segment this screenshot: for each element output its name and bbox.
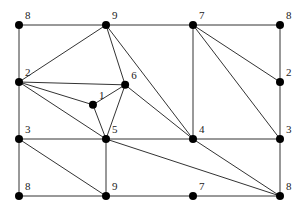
node-n6 [121,81,129,89]
node-label-n9b: 9 [112,180,118,192]
edge-n6-n4 [125,85,193,139]
edge-n4-n8br [193,139,280,196]
node-n8bl [15,192,23,200]
edge-n9t-n2l [19,25,106,82]
edge-n1-n6 [93,85,125,105]
node-n7b [189,192,197,200]
node-label-n8tl: 8 [25,9,31,21]
node-n9b [102,192,110,200]
node-n8tr [276,21,284,29]
edges-group [19,25,280,196]
node-label-n4: 4 [199,123,205,135]
edge-n2l-n1 [19,82,93,105]
node-n2l [15,78,23,86]
node-label-n2r: 2 [286,66,292,78]
node-label-n8tr: 8 [286,9,292,21]
edge-n1-n5 [93,105,106,139]
node-n4 [189,135,197,143]
node-n7t [189,21,197,29]
node-label-n5: 5 [112,123,118,135]
node-n1 [89,101,97,109]
node-label-n6: 6 [131,69,137,81]
node-n2r [276,78,284,86]
edge-n2l-n5 [19,82,106,139]
node-label-n7b: 7 [199,180,205,192]
nodes-group [15,21,284,200]
node-n9t [102,21,110,29]
node-label-n1: 1 [99,89,105,101]
node-n3r [276,135,284,143]
edge-n9t-n6 [106,25,125,85]
labels-group: 8978261235438978 [25,9,292,192]
node-label-n8bl: 8 [25,180,31,192]
node-label-n7t: 7 [199,9,205,21]
node-label-n3r: 3 [286,123,292,135]
node-n3l [15,135,23,143]
node-n8tl [15,21,23,29]
node-label-n3l: 3 [25,123,31,135]
edge-n7t-n3r [193,25,280,139]
edge-n5-n8br [106,139,280,196]
node-label-n2l: 2 [25,66,31,78]
edge-n7t-n2r [193,25,280,82]
edge-n2l-n6 [19,82,125,85]
graph-diagram: 8978261235438978 [0,0,303,212]
node-label-n8br: 8 [286,180,292,192]
node-label-n9t: 9 [112,9,118,21]
node-n5 [102,135,110,143]
edge-n3l-n9b [19,139,106,196]
edge-n9t-n4 [106,25,193,139]
node-n8br [276,192,284,200]
